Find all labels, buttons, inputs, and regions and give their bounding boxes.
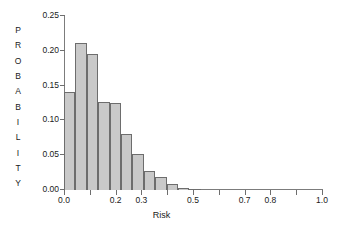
y-axis-title: P R O B A B I L I T Y — [10, 26, 26, 188]
x-axis-tick-mark — [219, 190, 220, 195]
y-axis-title-char: T — [15, 164, 20, 173]
y-axis-title-char: R — [15, 41, 21, 50]
y-axis-title-char: O — [15, 57, 22, 66]
x-axis-tick-label: 0.3 — [135, 196, 147, 205]
x-axis-tick-labels: 0.00.20.30.50.70.81.0 — [0, 196, 343, 208]
y-axis-title-char: B — [15, 72, 21, 81]
x-axis-tick-label: 0.0 — [58, 196, 70, 205]
histogram-bar — [75, 43, 86, 190]
y-axis-title-char: I — [17, 149, 19, 158]
y-axis-tick-label: 0.25 — [33, 11, 59, 20]
histogram-bar — [64, 92, 75, 190]
x-axis-tick-mark — [167, 190, 168, 195]
bars-layer — [64, 16, 322, 190]
x-axis-title: Risk — [0, 210, 343, 220]
y-axis-tick-label: 0.20 — [33, 46, 59, 55]
y-axis-tick-label: 0.05 — [33, 150, 59, 159]
histogram-bar — [144, 171, 155, 190]
x-axis-tick-label: 0.7 — [239, 196, 251, 205]
x-axis-tick-label: 1.0 — [316, 196, 328, 205]
x-axis-tick-label: 0.8 — [264, 196, 276, 205]
y-axis-title-char: B — [15, 103, 21, 112]
histogram-bar — [87, 54, 98, 190]
x-axis-title-text: Risk — [153, 210, 171, 220]
histogram-chart: P R O B A B I L I T Y 0.000.050.100.150.… — [0, 0, 343, 234]
y-axis-title-char: A — [15, 87, 21, 96]
x-axis-tick-label: 0.5 — [187, 196, 199, 205]
histogram-bar — [132, 154, 143, 190]
x-axis-tick-label: 0.2 — [110, 196, 122, 205]
x-axis-tick-mark — [90, 190, 91, 195]
y-axis-title-char: L — [16, 133, 21, 142]
y-axis-tick-label: 0.15 — [33, 81, 59, 90]
histogram-bar — [155, 177, 166, 190]
histogram-bar — [178, 188, 189, 190]
y-axis-tick-label: 0.00 — [33, 185, 59, 194]
y-axis-title-char: Y — [15, 179, 21, 188]
histogram-bar — [189, 189, 200, 191]
histogram-bar — [167, 184, 178, 190]
x-axis-tick-mark — [296, 190, 297, 195]
y-axis-tick-label: 0.10 — [33, 115, 59, 124]
y-axis-title-char: I — [17, 118, 19, 127]
histogram-bar — [121, 134, 132, 190]
histogram-bar — [98, 102, 109, 190]
histogram-bar — [110, 103, 121, 190]
y-axis-title-char: P — [15, 26, 21, 35]
